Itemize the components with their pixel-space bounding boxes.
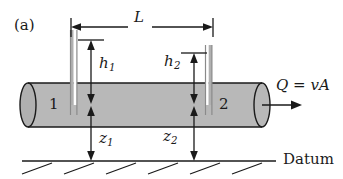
- head-1-label: h1: [99, 56, 115, 71]
- station-2-label: 2: [219, 97, 229, 112]
- datum-hatch-2: [64, 163, 94, 174]
- elevation-2-symbol: z: [163, 127, 171, 145]
- elevation-1-dimension: [87, 106, 95, 161]
- datum-line-group: [22, 161, 276, 174]
- elevation-2-label: z2: [163, 129, 177, 144]
- piezometer-tube-2: [206, 45, 212, 115]
- elevation-1-down-arrowhead: [87, 151, 95, 161]
- head-2-label: h2: [164, 54, 180, 69]
- elevation-1-symbol: z: [99, 129, 107, 147]
- flow-equation-label: Q = vA: [276, 78, 330, 93]
- station-1-label: 1: [49, 97, 59, 112]
- head-1-up-arrowhead: [87, 40, 95, 50]
- elevation-2-down-arrowhead: [190, 151, 198, 161]
- head-1-symbol: h: [99, 54, 109, 72]
- head-2-up-arrowhead: [190, 53, 198, 63]
- datum-hatch-3: [106, 163, 136, 174]
- elevation-1-subscript: 1: [107, 137, 113, 148]
- panel-label: (a): [14, 18, 35, 33]
- pipe-left-endcap: [20, 83, 36, 127]
- head-1-subscript: 1: [109, 62, 115, 73]
- datum-hatch-4: [148, 163, 178, 174]
- length-label: L: [134, 10, 144, 25]
- head-2-subscript: 2: [174, 60, 180, 71]
- piezometer-tube-1: [71, 30, 77, 115]
- head-2-symbol: h: [164, 52, 174, 70]
- datum-hatch-5: [190, 163, 220, 174]
- datum-label: Datum: [283, 152, 334, 167]
- datum-hatch-1: [22, 163, 52, 174]
- elevation-1-label: z1: [99, 131, 113, 146]
- length-right-arrowhead: [203, 23, 213, 31]
- length-left-arrowhead: [71, 23, 81, 31]
- flow-arrowhead: [291, 101, 302, 110]
- elevation-2-subscript: 2: [171, 135, 177, 146]
- figure-container: (a) L h1 h2 z1 z2 1 2 Q = vA Datum: [0, 0, 343, 179]
- elevation-2-dimension: [190, 106, 198, 161]
- datum-hatch-6: [232, 163, 262, 174]
